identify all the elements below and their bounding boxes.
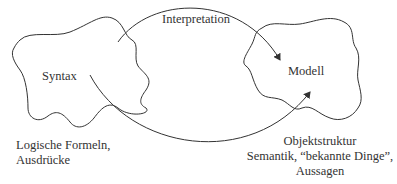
modell-caption-line3: Aussagen: [280, 164, 360, 179]
syntax-caption-line2: Ausdrücke: [16, 153, 70, 168]
syntax-caption-line1: Logische Formeln,: [16, 138, 110, 153]
modell-label: Modell: [288, 64, 324, 79]
syntax-label: Syntax: [42, 69, 77, 84]
modell-caption-line1: Objektstruktur: [270, 134, 370, 149]
syntax-blob: [12, 17, 149, 127]
modell-caption-line2: Semantik, “bekannte Dinge”,: [232, 149, 397, 164]
lower-mapping-arrow: [90, 75, 310, 142]
interpretation-label: Interpretation: [162, 12, 230, 27]
